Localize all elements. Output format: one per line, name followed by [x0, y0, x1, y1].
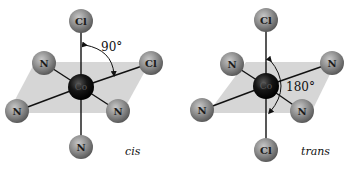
svg-text:Co: Co	[260, 81, 272, 91]
svg-text:N: N	[297, 106, 306, 117]
svg-text:Cl: Cl	[75, 16, 87, 27]
atom-cl-right: Cl	[139, 51, 163, 75]
atom-cl-top: Cl	[254, 8, 278, 32]
svg-text:N: N	[227, 59, 236, 70]
trans-panel: 180° Cl N N N N Cl Co trans	[190, 8, 344, 162]
svg-text:N: N	[76, 142, 85, 153]
atom-co-center: Co	[253, 73, 279, 99]
svg-text:Co: Co	[75, 82, 87, 92]
angle-label: 90°	[101, 40, 122, 54]
atom-n-lower-right: N	[290, 99, 314, 123]
atom-cl-bottom: Cl	[254, 138, 278, 162]
atom-co-center: Co	[68, 74, 94, 100]
isomer-label-cis: cis	[125, 145, 141, 158]
octahedral-isomers-diagram: 90° Cl Cl N N N N Co cis	[0, 0, 352, 171]
svg-text:N: N	[12, 106, 21, 117]
atom-n-lower-left: N	[5, 99, 29, 123]
svg-text:Cl: Cl	[260, 15, 272, 26]
isomer-label-trans: trans	[301, 145, 330, 158]
svg-text:N: N	[327, 58, 336, 69]
atom-n-bottom: N	[69, 135, 93, 159]
svg-text:N: N	[39, 58, 48, 69]
svg-text:Cl: Cl	[260, 145, 272, 156]
atom-n-lower-right: N	[106, 99, 130, 123]
atom-cl-top: Cl	[69, 9, 93, 33]
atom-n-upper-left: N	[220, 52, 244, 76]
cis-panel: 90° Cl Cl N N N N Co cis	[5, 9, 163, 159]
svg-text:N: N	[113, 106, 122, 117]
atom-n-upper-left: N	[32, 51, 56, 75]
atom-n-lower-left: N	[190, 98, 214, 122]
svg-text:N: N	[197, 105, 206, 116]
atom-n-right: N	[320, 51, 344, 75]
svg-text:Cl: Cl	[145, 58, 157, 69]
angle-label: 180°	[286, 80, 315, 94]
